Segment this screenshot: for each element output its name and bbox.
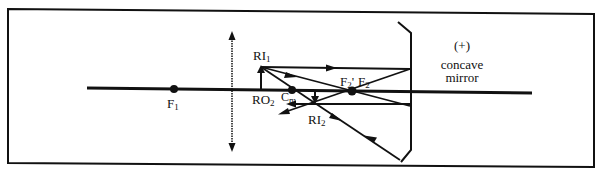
label-cm: Cm	[281, 91, 296, 107]
mirror-sign-label: (+)	[435, 39, 489, 52]
label-ri1-main: RI	[253, 48, 266, 63]
ray-center-arrow-icon-2	[364, 136, 377, 143]
label-f2prime-suffix: '	[352, 74, 354, 89]
optical-axis	[87, 88, 532, 93]
label-f2-sub: 2	[365, 80, 370, 90]
label-cm-main: C	[281, 90, 289, 104]
label-ri1: RI1	[253, 49, 271, 66]
ray-parallel-arrow-icon	[326, 65, 337, 72]
converging-lens-icon	[229, 31, 236, 152]
label-f2: F2	[358, 75, 370, 92]
label-cm-sub: m	[289, 95, 296, 105]
label-f1: F1	[167, 97, 179, 114]
label-ro2: RO2	[252, 93, 275, 110]
mirror-name-line2: mirror	[423, 71, 501, 84]
label-ro2-main: RO	[252, 92, 270, 107]
label-ro2-sub: 2	[270, 98, 275, 108]
f1-focal-point	[170, 85, 178, 93]
label-f1-sub: 1	[174, 102, 179, 112]
label-f2prime: F2'	[340, 75, 354, 92]
label-ri2: RI2	[308, 113, 326, 130]
ray-diagram	[0, 0, 599, 172]
reflected-arrow-icon	[278, 108, 290, 115]
label-ri1-sub: 1	[266, 54, 271, 64]
label-ri2-sub: 2	[321, 118, 326, 128]
label-ri2-main: RI	[308, 112, 321, 127]
